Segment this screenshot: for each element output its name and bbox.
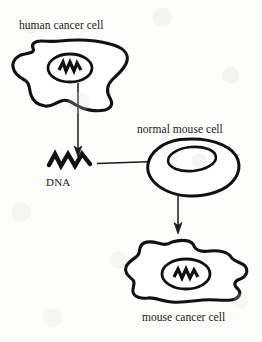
label-dna: DNA bbox=[46, 176, 70, 189]
dna-fragment-group bbox=[49, 154, 90, 166]
human-cancer-cell-group bbox=[13, 40, 127, 111]
label-normal-mouse-cell: normal mouse cell bbox=[137, 123, 223, 136]
label-mouse-cancer-cell: mouse cancer cell bbox=[142, 311, 225, 324]
mouse-cancer-cell-nucleus bbox=[162, 259, 210, 289]
arrow-mouse-cell-to-cancer-cell bbox=[174, 194, 182, 234]
dna-transfection-figure: human cancer cell normal mouse cell DNA … bbox=[0, 0, 262, 342]
dna-fragment-zigzag-icon bbox=[49, 154, 90, 166]
mouse-cancer-cell-group bbox=[126, 240, 247, 302]
diagram-canvas bbox=[0, 0, 262, 342]
label-human-cancer-cell: human cancer cell bbox=[19, 19, 104, 32]
normal-mouse-cell-group bbox=[148, 139, 239, 196]
